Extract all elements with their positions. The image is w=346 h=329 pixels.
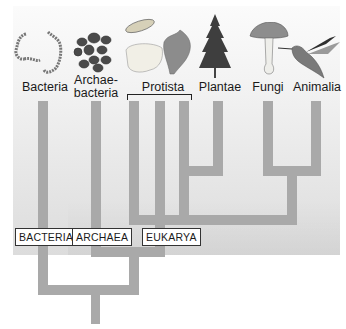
protista-bracket	[127, 94, 192, 100]
archaebacteria-cluster-icon	[72, 32, 116, 74]
kingdom-label-archaebacteria-line2: bacteria	[72, 87, 120, 100]
branch-protista-1	[129, 101, 139, 225]
domain-label-bacteria: BACTERIA	[15, 228, 77, 246]
bacteria-chain-icon	[14, 30, 66, 78]
branch-root	[91, 285, 100, 324]
conifer-tree-icon	[198, 12, 232, 80]
kingdom-label-bacteria: Bacteria	[22, 81, 66, 94]
domain-label-eukarya: EUKARYA	[142, 228, 201, 246]
branch-protista-3	[179, 101, 189, 225]
branch-bacteria	[38, 101, 48, 295]
branch-archaea-eukarya-join	[91, 247, 165, 257]
kingdom-label-archaebacteria: Archae- bacteria	[72, 74, 120, 100]
protista-icon	[124, 14, 194, 80]
hummingbird-icon	[276, 34, 342, 82]
kingdom-label-fungi: Fungi	[248, 81, 288, 94]
kingdom-label-plantae: Plantae	[198, 81, 242, 94]
branch-plantae	[213, 101, 223, 176]
kingdom-label-animalia: Animalia	[292, 81, 342, 94]
branch-root-join	[38, 285, 139, 295]
branch-animalia	[311, 101, 321, 176]
kingdom-label-protista: Protista	[138, 81, 188, 94]
branch-protista-2	[155, 101, 165, 225]
domain-label-archaea: ARCHAEA	[72, 228, 132, 246]
branch-fungi	[263, 101, 273, 176]
branch-plantae-join	[179, 166, 223, 176]
